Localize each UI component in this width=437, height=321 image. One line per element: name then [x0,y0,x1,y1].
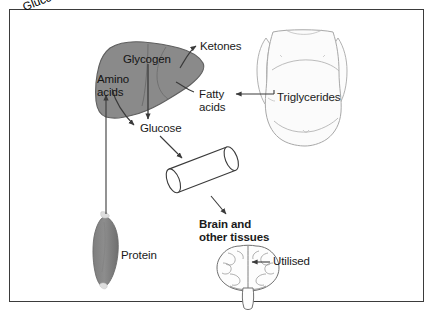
label-triglycerides: Triglycerides [277,91,340,104]
torso-outline-illustration [257,30,347,146]
label-fatty-acids: Fatty acids [199,88,225,113]
label-ketones: Ketones [200,40,242,53]
diagram-canvas: Glycogen Amino acids Ketones Fatty acids… [0,0,437,321]
label-glycogen: Glycogen [123,53,171,66]
label-protein: Protein [121,249,157,262]
label-glucose-liver: Glucose [140,122,182,135]
label-utilised: Utilised [273,255,310,268]
arrow-glucose-to-tube [160,136,182,158]
skeletal-muscle-protein [93,212,118,289]
glucose-transport-tube [163,145,241,195]
label-amino-acids: Amino acids [97,73,129,98]
arrow-tube-to-brain [211,196,226,214]
brain-outline-illustration [217,245,279,309]
label-brain-and-other-tissues: Brain and other tissues [199,218,269,243]
